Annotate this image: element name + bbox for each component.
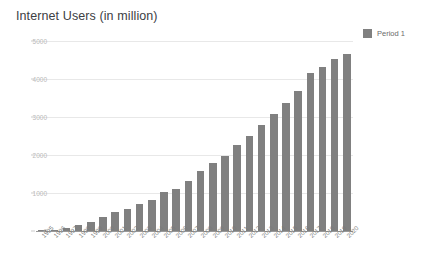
y-axis-tick-mark — [31, 231, 35, 232]
bar[interactable] — [246, 136, 254, 231]
bar[interactable] — [209, 163, 217, 231]
bar-chart: Internet Users (in million) Period 1 010… — [0, 0, 431, 267]
legend-swatch-period-1 — [363, 29, 372, 38]
bar[interactable] — [319, 67, 327, 231]
chart-title: Internet Users (in million) — [16, 9, 158, 23]
bars-layer — [36, 41, 353, 231]
bar[interactable] — [270, 114, 278, 231]
y-axis-tick-mark — [31, 155, 35, 156]
y-axis-tick-mark — [31, 41, 35, 42]
plot-area — [36, 41, 353, 231]
y-axis-tick-mark — [31, 117, 35, 118]
bar[interactable] — [258, 125, 266, 231]
bar[interactable] — [221, 156, 229, 231]
y-axis-tick-mark — [31, 193, 35, 194]
bar[interactable] — [307, 73, 315, 231]
y-axis-tick-mark — [31, 79, 35, 80]
bar[interactable] — [233, 145, 241, 231]
bar[interactable] — [331, 59, 339, 231]
bar[interactable] — [197, 171, 205, 231]
x-axis: 1995199619971998199920002001200220032004… — [36, 232, 353, 267]
bar[interactable] — [185, 181, 193, 231]
bar[interactable] — [343, 54, 351, 231]
bar[interactable] — [282, 103, 290, 231]
bar[interactable] — [294, 91, 302, 231]
chart-legend: Period 1 — [363, 29, 405, 38]
legend-label-period-1: Period 1 — [377, 29, 405, 38]
